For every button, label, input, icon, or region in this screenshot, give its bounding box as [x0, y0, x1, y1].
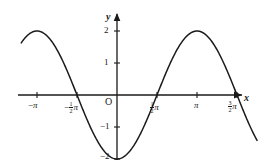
- x-tick-neg-half-pi-fraction: 12: [69, 101, 73, 115]
- coordinate-plot: [0, 0, 260, 165]
- fraction-denominator: 2: [69, 107, 73, 114]
- x-tick-label-half-pi: 12π: [150, 101, 159, 115]
- y-tick-label-neg-2: −2: [100, 152, 110, 161]
- x-tick-label-pi: π: [194, 101, 199, 110]
- x-tick-label-neg-half-pi: −12π: [64, 101, 78, 115]
- x-tick-three-half-pi-symbol: π: [232, 101, 237, 111]
- origin-label: O: [105, 97, 112, 107]
- x-tick-neg-pi-symbol: π: [33, 100, 38, 110]
- graph-figure: y x O 2 1 −1 −2 −π −12π 12π π 32π: [0, 0, 260, 165]
- fraction-denominator: 2: [150, 107, 154, 114]
- y-axis-arrow-icon: [114, 13, 121, 21]
- x-tick-half-pi-symbol: π: [154, 102, 159, 112]
- x-axis: [18, 92, 242, 99]
- x-tick-label-neg-pi: −π: [28, 101, 38, 110]
- y-tick-label-neg-1: −1: [100, 122, 110, 131]
- y-axis: [114, 13, 121, 160]
- y-tick-label-1: 1: [104, 58, 109, 67]
- y-tick-label-2: 2: [104, 26, 109, 35]
- x-tick-pi-symbol: π: [194, 100, 199, 110]
- x-axis-label: x: [244, 93, 249, 103]
- x-tick-neg-half-pi-symbol: π: [73, 102, 78, 112]
- y-axis-label: y: [106, 12, 110, 22]
- x-tick-three-half-pi-fraction: 32: [228, 100, 232, 114]
- x-tick-half-pi-fraction: 12: [150, 101, 154, 115]
- x-tick-label-three-half-pi: 32π: [228, 100, 237, 114]
- fraction-denominator: 2: [228, 106, 232, 113]
